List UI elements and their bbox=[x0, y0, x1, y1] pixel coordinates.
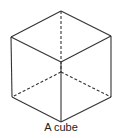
cube-edge bbox=[61, 97, 111, 122]
cube-edge bbox=[11, 11, 61, 37]
cube-edge bbox=[11, 37, 12, 97]
cube-hidden-edge bbox=[61, 72, 111, 97]
cube-edge bbox=[11, 37, 61, 62]
cube-hidden-edge bbox=[12, 72, 61, 97]
diagram-caption: A cube bbox=[0, 121, 120, 133]
cube-diagram bbox=[0, 0, 120, 138]
cube-edge bbox=[12, 97, 61, 122]
cube-edge bbox=[61, 36, 111, 62]
cube-edge bbox=[61, 11, 111, 36]
